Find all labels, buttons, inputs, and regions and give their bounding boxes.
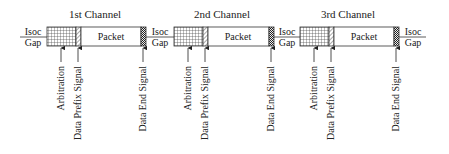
channel-3: 3rd Channel Isoc Gap Packet Arbitration … bbox=[274, 8, 401, 140]
channel-2: 2nd Channel Isoc Gap Packet Arbitration … bbox=[146, 8, 276, 140]
arbitration-block bbox=[174, 27, 203, 46]
packet-label: Packet bbox=[351, 31, 378, 42]
data-prefix-label: Data Prefix Signal bbox=[199, 66, 210, 140]
arbitration-label: Arbitration bbox=[182, 66, 193, 110]
data-end-block bbox=[141, 27, 146, 46]
gap-label: Gap bbox=[152, 37, 169, 48]
isochronous-channel-diagram: 1st Channel Isoc Gap Packet Arbitration … bbox=[0, 0, 449, 154]
channel-title: 3rd Channel bbox=[321, 8, 375, 20]
packet-label: Packet bbox=[225, 31, 252, 42]
gap-label: Gap bbox=[25, 37, 42, 48]
data-prefix-label: Data Prefix Signal bbox=[72, 66, 83, 140]
data-end-block bbox=[394, 27, 399, 46]
isoc-label: Isoc bbox=[25, 26, 42, 37]
arbitration-label: Arbitration bbox=[308, 66, 319, 110]
isoc-gap-label: Isoc Gap bbox=[146, 26, 174, 48]
arbitration-label: Arbitration bbox=[55, 66, 66, 110]
data-prefix-block bbox=[329, 27, 334, 46]
data-prefix-block bbox=[76, 27, 81, 46]
packet-label: Packet bbox=[98, 31, 125, 42]
data-end-label: Data End Signal bbox=[265, 66, 276, 132]
isoc-gap-label: Isoc Gap bbox=[274, 26, 300, 48]
channel-1: 1st Channel Isoc Gap Packet Arbitration … bbox=[20, 8, 148, 140]
gap-label: Gap bbox=[405, 37, 422, 48]
isoc-label: Isoc bbox=[152, 26, 169, 37]
arbitration-block bbox=[47, 27, 76, 46]
data-prefix-block bbox=[203, 27, 208, 46]
isoc-label: Isoc bbox=[279, 26, 296, 37]
data-end-label: Data End Signal bbox=[137, 66, 148, 132]
channel-title: 1st Channel bbox=[69, 8, 121, 20]
data-prefix-label: Data Prefix Signal bbox=[325, 66, 336, 140]
arbitration-block bbox=[300, 27, 329, 46]
data-end-block bbox=[269, 27, 274, 46]
isoc-gap-label: Isoc Gap bbox=[20, 26, 47, 48]
gap-label: Gap bbox=[279, 37, 296, 48]
trailing-isoc-gap-label: Isoc Gap bbox=[399, 26, 426, 48]
data-end-label: Data End Signal bbox=[390, 66, 401, 132]
channel-title: 2nd Channel bbox=[194, 8, 250, 20]
isoc-label: Isoc bbox=[405, 26, 422, 37]
